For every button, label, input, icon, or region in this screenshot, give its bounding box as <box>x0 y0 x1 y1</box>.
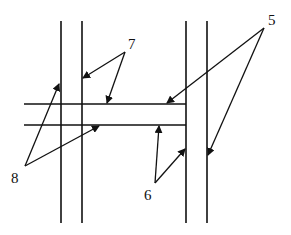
callout-7-arrow-a <box>83 52 125 78</box>
callout-7-arrow-b <box>107 52 125 103</box>
label-7: 7 <box>128 37 136 52</box>
callout-8-arrow-b <box>25 126 99 166</box>
callout-6-arrow-a <box>155 126 159 183</box>
label-6: 6 <box>144 188 152 203</box>
label-8: 8 <box>11 171 19 186</box>
callout-5-arrow-b <box>208 28 264 155</box>
label-5: 5 <box>268 13 276 28</box>
callout-5-arrow-a <box>167 28 264 103</box>
callout-6-arrow-b <box>155 149 185 183</box>
